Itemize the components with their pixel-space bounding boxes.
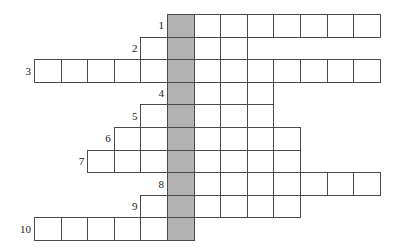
letter-cell[interactable]: [61, 59, 89, 83]
crossword-row-10: [34, 217, 194, 241]
letter-cell[interactable]: [247, 59, 275, 83]
highlighted-cell[interactable]: [167, 59, 195, 83]
clue-number-3: 3: [7, 66, 31, 77]
letter-cell[interactable]: [34, 59, 62, 83]
highlighted-cell[interactable]: [167, 127, 195, 151]
letter-cell[interactable]: [220, 14, 248, 38]
clue-number-4: 4: [140, 88, 164, 99]
letter-cell[interactable]: [220, 104, 248, 128]
letter-cell[interactable]: [353, 172, 381, 196]
letter-cell[interactable]: [247, 172, 275, 196]
letter-cell[interactable]: [273, 127, 301, 151]
letter-cell[interactable]: [247, 195, 275, 219]
crossword-row-2: [140, 37, 246, 61]
letter-cell[interactable]: [300, 172, 328, 196]
crossword-row-7: [87, 150, 300, 174]
crossword-grid: 12345678910: [0, 0, 394, 251]
crossword-row-8: [167, 172, 380, 196]
letter-cell[interactable]: [140, 150, 168, 174]
letter-cell[interactable]: [327, 172, 355, 196]
letter-cell[interactable]: [140, 217, 168, 241]
letter-cell[interactable]: [194, 150, 222, 174]
letter-cell[interactable]: [140, 127, 168, 151]
letter-cell[interactable]: [87, 150, 115, 174]
highlighted-cell[interactable]: [167, 104, 195, 128]
letter-cell[interactable]: [194, 59, 222, 83]
letter-cell[interactable]: [220, 82, 248, 106]
letter-cell[interactable]: [327, 14, 355, 38]
letter-cell[interactable]: [114, 150, 142, 174]
highlighted-cell[interactable]: [167, 150, 195, 174]
crossword-row-9: [140, 195, 300, 219]
letter-cell[interactable]: [87, 217, 115, 241]
letter-cell[interactable]: [220, 37, 248, 61]
letter-cell[interactable]: [247, 82, 275, 106]
letter-cell[interactable]: [353, 59, 381, 83]
letter-cell[interactable]: [61, 217, 89, 241]
highlighted-cell[interactable]: [167, 217, 195, 241]
clue-number-6: 6: [87, 133, 111, 144]
crossword-row-5: [140, 104, 273, 128]
clue-number-7: 7: [60, 156, 84, 167]
highlighted-cell[interactable]: [167, 195, 195, 219]
letter-cell[interactable]: [194, 127, 222, 151]
letter-cell[interactable]: [247, 150, 275, 174]
crossword-row-1: [167, 14, 380, 38]
letter-cell[interactable]: [114, 59, 142, 83]
letter-cell[interactable]: [247, 14, 275, 38]
clue-number-10: 10: [7, 224, 31, 235]
letter-cell[interactable]: [140, 104, 168, 128]
letter-cell[interactable]: [194, 82, 222, 106]
highlighted-cell[interactable]: [167, 14, 195, 38]
clue-number-5: 5: [113, 111, 137, 122]
letter-cell[interactable]: [220, 150, 248, 174]
clue-number-1: 1: [140, 20, 164, 31]
letter-cell[interactable]: [140, 195, 168, 219]
letter-cell[interactable]: [273, 150, 301, 174]
letter-cell[interactable]: [300, 59, 328, 83]
clue-number-8: 8: [140, 179, 164, 190]
letter-cell[interactable]: [140, 59, 168, 83]
letter-cell[interactable]: [194, 37, 222, 61]
letter-cell[interactable]: [194, 14, 222, 38]
letter-cell[interactable]: [273, 14, 301, 38]
highlighted-cell[interactable]: [167, 37, 195, 61]
letter-cell[interactable]: [327, 59, 355, 83]
letter-cell[interactable]: [87, 59, 115, 83]
crossword-row-3: [34, 59, 380, 83]
letter-cell[interactable]: [114, 217, 142, 241]
highlighted-cell[interactable]: [167, 82, 195, 106]
letter-cell[interactable]: [247, 104, 275, 128]
highlighted-cell[interactable]: [167, 172, 195, 196]
letter-cell[interactable]: [220, 195, 248, 219]
letter-cell[interactable]: [194, 104, 222, 128]
letter-cell[interactable]: [273, 59, 301, 83]
crossword-row-6: [114, 127, 300, 151]
letter-cell[interactable]: [220, 59, 248, 83]
letter-cell[interactable]: [34, 217, 62, 241]
letter-cell[interactable]: [353, 14, 381, 38]
letter-cell[interactable]: [220, 127, 248, 151]
letter-cell[interactable]: [194, 172, 222, 196]
letter-cell[interactable]: [300, 14, 328, 38]
letter-cell[interactable]: [194, 195, 222, 219]
letter-cell[interactable]: [114, 127, 142, 151]
letter-cell[interactable]: [140, 37, 168, 61]
letter-cell[interactable]: [220, 172, 248, 196]
letter-cell[interactable]: [273, 195, 301, 219]
letter-cell[interactable]: [273, 172, 301, 196]
clue-number-9: 9: [113, 201, 137, 212]
crossword-row-4: [167, 82, 273, 106]
letter-cell[interactable]: [247, 127, 275, 151]
clue-number-2: 2: [113, 43, 137, 54]
